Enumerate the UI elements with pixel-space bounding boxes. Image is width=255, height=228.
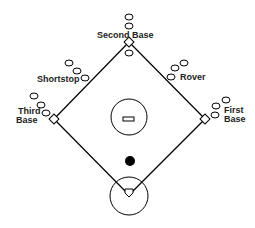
player-first-base-3 (211, 112, 219, 118)
baseball-diagram: Second Base Shortstop Rover Third Base F… (0, 0, 255, 228)
player-shortstop-3 (81, 75, 89, 81)
player-first-base-1 (222, 97, 230, 103)
player-second-base-3 (125, 50, 133, 56)
player-third-base-3 (42, 110, 50, 116)
player-second-base-1 (125, 14, 133, 20)
player-rover-3 (167, 74, 175, 80)
player-third-base-1 (30, 93, 38, 99)
player-shortstop-1 (65, 60, 73, 66)
label-first-base-line2: Base (224, 114, 246, 124)
pitcher-rubber (123, 117, 134, 121)
home-plate (125, 189, 133, 197)
label-third-base-line2: Base (16, 115, 38, 125)
label-rover: Rover (180, 72, 206, 82)
player-rover-2 (171, 65, 179, 71)
player-rover-1 (180, 60, 188, 66)
label-shortstop: Shortstop (37, 74, 80, 84)
label-second-base: Second Base (97, 30, 154, 40)
player-second-base-2 (125, 23, 133, 29)
player-first-base-2 (212, 103, 220, 109)
ball-marker (125, 156, 135, 166)
baseline-home-to-third (54, 119, 129, 195)
